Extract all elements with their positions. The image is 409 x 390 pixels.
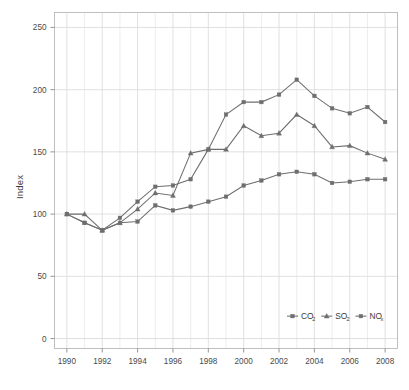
x-tick-label: 2004 — [305, 357, 324, 366]
data-point-marker — [118, 221, 122, 225]
data-point-marker — [224, 113, 228, 117]
data-point-marker — [100, 228, 104, 232]
data-point-marker — [366, 105, 370, 109]
data-point-marker — [153, 190, 158, 195]
legend-item-NOx[interactable]: NOx — [355, 311, 383, 322]
plot-area: 1990199219941996199820002002200420062008… — [0, 0, 409, 390]
y-tick-label: 150 — [33, 148, 47, 157]
x-tick-label: 1992 — [93, 357, 112, 366]
data-point-marker — [260, 100, 264, 104]
x-tick-label: 2008 — [376, 357, 395, 366]
data-point-marker — [241, 123, 246, 128]
x-tick-label: 2002 — [270, 357, 289, 366]
data-point-marker — [277, 93, 281, 97]
data-point-marker — [242, 184, 246, 188]
data-point-marker — [189, 205, 193, 209]
data-point-marker — [224, 195, 228, 199]
legend-label-subscript: 2 — [312, 316, 315, 322]
legend[interactable]: CO2SO2NOx — [287, 311, 384, 322]
data-point-marker — [348, 180, 352, 184]
data-point-marker — [295, 170, 299, 174]
x-axis-ticks: 1990199219941996199820002002200420062008 — [58, 349, 395, 366]
x-tick-label: 1998 — [199, 357, 218, 366]
y-axis-ticks: 050100150200250 — [33, 23, 55, 343]
data-point-marker — [313, 172, 317, 176]
x-tick-label: 1990 — [58, 357, 77, 366]
data-point-marker — [295, 78, 299, 82]
data-point-marker — [136, 220, 140, 224]
data-point-marker — [330, 181, 334, 185]
data-point-marker — [83, 221, 87, 225]
data-point-marker — [330, 107, 334, 111]
data-point-marker — [136, 200, 140, 204]
data-point-marker — [242, 100, 246, 104]
data-point-marker — [313, 94, 317, 98]
y-tick-label: 0 — [42, 335, 47, 344]
y-tick-label: 100 — [33, 210, 47, 219]
data-point-marker — [171, 209, 175, 213]
data-point-marker — [260, 179, 264, 183]
x-tick-label: 2000 — [235, 357, 254, 366]
data-point-marker — [383, 120, 387, 124]
data-point-marker — [291, 314, 295, 318]
x-tick-label: 1994 — [128, 357, 147, 366]
gridlines — [55, 13, 398, 349]
data-point-marker — [65, 212, 69, 216]
y-tick-label: 250 — [33, 23, 47, 32]
data-point-marker — [277, 172, 281, 176]
data-point-marker — [348, 112, 352, 116]
legend-label-subscript: x — [381, 316, 384, 322]
data-point-marker — [153, 185, 157, 189]
x-tick-label: 1996 — [164, 357, 183, 366]
data-point-marker — [207, 200, 211, 204]
legend-item-SO2[interactable]: SO2 — [321, 311, 349, 322]
data-point-marker — [294, 112, 299, 117]
line-chart: Index 1990199219941996199820002002200420… — [0, 0, 409, 390]
y-tick-label: 200 — [33, 86, 47, 95]
data-point-marker — [153, 204, 157, 208]
legend-item-CO2[interactable]: CO2 — [287, 311, 315, 322]
data-point-marker — [366, 177, 370, 181]
data-point-marker — [118, 216, 122, 220]
legend-label-subscript: 2 — [346, 316, 349, 322]
data-point-marker — [312, 123, 317, 128]
data-point-marker — [171, 184, 175, 188]
data-point-marker — [383, 177, 387, 181]
x-tick-label: 2006 — [341, 357, 360, 366]
data-point-marker — [189, 177, 193, 181]
data-point-marker — [359, 314, 363, 318]
y-tick-label: 50 — [37, 272, 47, 281]
